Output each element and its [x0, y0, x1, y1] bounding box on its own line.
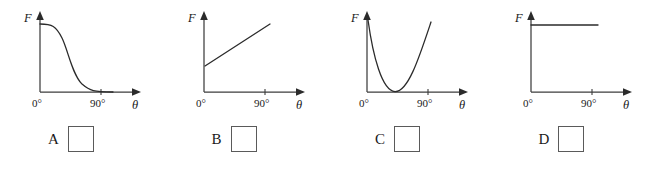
y-axis-arrow-b	[200, 11, 208, 20]
x-tick-label-90-a: 90°	[90, 97, 105, 109]
graph-panel-b: F θ 0° 90°	[164, 0, 328, 118]
x-axis-label-a: θ	[132, 98, 138, 112]
x-axis-label-d: θ	[623, 98, 629, 112]
answer-letter-b: B	[212, 126, 222, 152]
x-tick-label-0-b: 0°	[196, 97, 206, 109]
x-axis-arrow-d	[623, 88, 632, 96]
x-tick-label-90-c: 90°	[417, 97, 432, 109]
y-axis-label-b: F	[187, 11, 196, 25]
x-axis-arrow-b	[296, 88, 305, 96]
x-tick-label-0-c: 0°	[359, 97, 369, 109]
answer-option-c[interactable]: C	[327, 118, 491, 172]
curve-a	[40, 24, 113, 92]
answer-row: A B C D	[0, 118, 654, 172]
answer-checkbox-d[interactable]	[558, 126, 584, 152]
y-axis-arrow-c	[363, 11, 371, 20]
y-axis-arrow-d	[527, 11, 535, 20]
answer-letter-d: D	[539, 126, 550, 152]
answer-letter-a: A	[48, 126, 59, 152]
x-tick-label-0-a: 0°	[32, 97, 42, 109]
y-axis-label-d: F	[514, 11, 523, 25]
graph-panel-d: F θ 0° 90°	[491, 0, 654, 118]
curve-c	[368, 20, 431, 92]
x-tick-label-90-b: 90°	[254, 97, 269, 109]
answer-checkbox-c[interactable]	[394, 126, 420, 152]
x-tick-label-0-d: 0°	[523, 97, 533, 109]
answer-option-d[interactable]: D	[491, 118, 654, 172]
x-axis-label-b: θ	[296, 98, 302, 112]
answer-option-b[interactable]: B	[164, 118, 328, 172]
answer-checkbox-a[interactable]	[68, 126, 94, 152]
x-axis-label-c: θ	[459, 98, 465, 112]
figure-sheet: F θ 0° 90° F θ 0° 90°	[0, 0, 654, 172]
curve-b	[205, 24, 270, 66]
x-tick-label-90-d: 90°	[581, 97, 596, 109]
graph-panel-c: F θ 0° 90°	[327, 0, 491, 118]
graph-panel-row: F θ 0° 90° F θ 0° 90°	[0, 0, 654, 118]
answer-checkbox-b[interactable]	[231, 126, 257, 152]
y-axis-label-c: F	[350, 11, 359, 25]
graph-panel-a: F θ 0° 90°	[0, 0, 164, 118]
x-axis-arrow-c	[459, 88, 468, 96]
y-axis-arrow-a	[36, 11, 44, 20]
x-axis-arrow-a	[132, 88, 141, 96]
answer-option-a[interactable]: A	[0, 118, 164, 172]
answer-letter-c: C	[375, 126, 385, 152]
y-axis-label-a: F	[23, 11, 32, 25]
